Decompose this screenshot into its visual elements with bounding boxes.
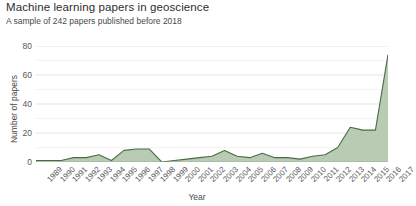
- plot-area: [36, 46, 388, 162]
- area-fill-path: [36, 55, 388, 162]
- x-axis-label: Year: [0, 192, 394, 202]
- y-axis-label: Number of papers: [9, 74, 19, 144]
- y-tick-label: 20: [23, 129, 32, 138]
- chart-title: Machine learning papers in geoscience: [6, 1, 209, 13]
- y-tick-label: 80: [23, 42, 32, 51]
- area-line-path: [36, 55, 388, 162]
- chart-subtitle: A sample of 242 papers published before …: [6, 16, 182, 26]
- y-tick-label: 0: [27, 158, 32, 167]
- area-chart-svg: [36, 46, 388, 162]
- y-tick-label: 60: [23, 71, 32, 80]
- y-tick-label: 40: [23, 100, 32, 109]
